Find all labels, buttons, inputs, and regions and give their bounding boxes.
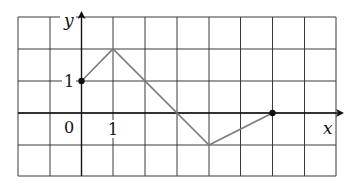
end-point-dot: [269, 110, 275, 116]
y-axis-label: y: [63, 10, 74, 30]
origin-label: 0: [64, 118, 74, 137]
x-axis-label: x: [323, 118, 333, 138]
x-tick-label-1: 1: [108, 120, 118, 139]
grid-lines: [18, 17, 336, 176]
y-tick-label-1: 1: [64, 72, 74, 91]
start-point-dot: [78, 78, 84, 84]
coordinate-graph: y 1 0 1 x: [0, 0, 351, 184]
